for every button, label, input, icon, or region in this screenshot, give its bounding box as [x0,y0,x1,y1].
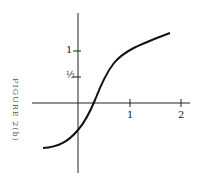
y-tick-label-1: 1 [66,45,72,55]
y-tick-label-half: ½ [66,71,75,80]
x-tick-label-2: 2 [178,110,184,120]
curve-line [43,33,170,148]
x-tick-label-1: 1 [127,110,133,120]
figure-caption-text: FIGURE 2(b) [11,78,20,142]
figure-caption: FIGURE 2(b) [8,78,22,148]
chart-plot [0,0,197,185]
